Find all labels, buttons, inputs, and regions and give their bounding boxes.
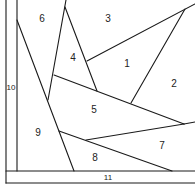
divider-line	[87, 4, 195, 61]
region-label-10: 10	[7, 83, 16, 93]
divider-line	[59, 131, 172, 171]
region-label-8: 8	[92, 153, 98, 163]
divider-line	[48, 0, 66, 100]
divider-line	[86, 124, 184, 140]
divider-line	[65, 7, 97, 91]
region-label-2: 2	[171, 79, 177, 89]
region-label-3: 3	[105, 14, 111, 24]
region-label-1: 1	[124, 59, 130, 69]
region-label-6: 6	[39, 14, 45, 24]
divider-line	[184, 122, 195, 124]
region-label-5: 5	[91, 105, 97, 115]
region-label-4: 4	[70, 53, 76, 63]
divider-line	[54, 75, 184, 124]
divider-line	[17, 20, 74, 171]
region-label-11: 11	[104, 173, 112, 183]
region-label-9: 9	[35, 128, 41, 138]
region-label-7: 7	[159, 141, 165, 151]
